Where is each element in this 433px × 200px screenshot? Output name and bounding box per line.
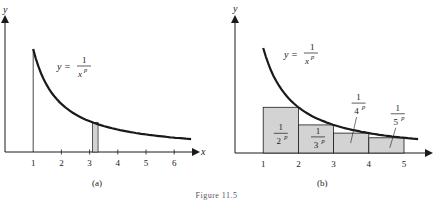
curve-label-lhs: y =: [283, 49, 298, 60]
curve-label-exp: p: [83, 66, 88, 73]
panel-a: y x 123456 y = 1 x p (a): [2, 4, 206, 188]
bar-label-num: 1: [396, 103, 401, 113]
x-axis-label: x: [200, 146, 206, 157]
curve-label-num: 1: [310, 42, 315, 52]
curve-label-lhs: y =: [56, 61, 71, 72]
bar-5: 15p: [369, 103, 406, 153]
bar-label-num: 1: [279, 122, 284, 132]
y-axis-label: y: [2, 4, 8, 15]
x-tick-label: 6: [172, 158, 177, 168]
bar-rect: [334, 133, 369, 153]
x-tick-label: 2: [296, 159, 301, 169]
x-tick-label: 5: [144, 158, 149, 168]
bar-label-den: 2: [277, 136, 282, 146]
x-tick-label: 4: [367, 159, 372, 169]
bar-label-exp: p: [283, 133, 288, 140]
bar-label-num: 1: [356, 92, 361, 102]
bar-label-den: 5: [394, 117, 399, 127]
panel-a-label: (a): [92, 178, 102, 188]
bar-2: 12p: [263, 107, 298, 153]
panel-b: y 12p13p14p15p 12345 y = 1 x p (b): [232, 3, 431, 188]
curve-label: y = 1 x p: [56, 55, 91, 79]
y-axis-label: y: [232, 3, 238, 14]
bar-4: 14p: [334, 92, 369, 153]
x-tick-label: 2: [59, 158, 64, 168]
curve-label-den: x: [304, 56, 309, 66]
panel-b-label: (b): [317, 178, 328, 188]
figure-caption: Figure 11.5: [0, 191, 433, 200]
bar-label-num: 1: [316, 126, 321, 136]
bar-label-exp: p: [361, 103, 366, 110]
curve-label-den: x: [77, 69, 82, 79]
x-tick-label: 1: [261, 159, 266, 169]
curve-label-num: 1: [82, 55, 87, 65]
x-tick-label: 4: [116, 158, 121, 168]
figure-canvas: y x 123456 y = 1 x p (a) y 12p13p14p15p …: [0, 0, 433, 200]
x-tick-label: 3: [331, 159, 336, 169]
bar-label-den: 4: [354, 106, 359, 116]
x-tick-label: 5: [402, 159, 407, 169]
bar-3: 13p: [298, 125, 333, 153]
bar-rect: [369, 138, 404, 153]
shaded-strip: [92, 122, 98, 152]
bar-label-den: 3: [314, 140, 319, 150]
x-tick-label: 3: [87, 158, 92, 168]
curve-label: y = 1 x p: [283, 42, 318, 66]
curve-label-exp: p: [310, 53, 315, 60]
x-tick-label: 1: [31, 158, 36, 168]
bar-label-exp: p: [400, 114, 405, 121]
